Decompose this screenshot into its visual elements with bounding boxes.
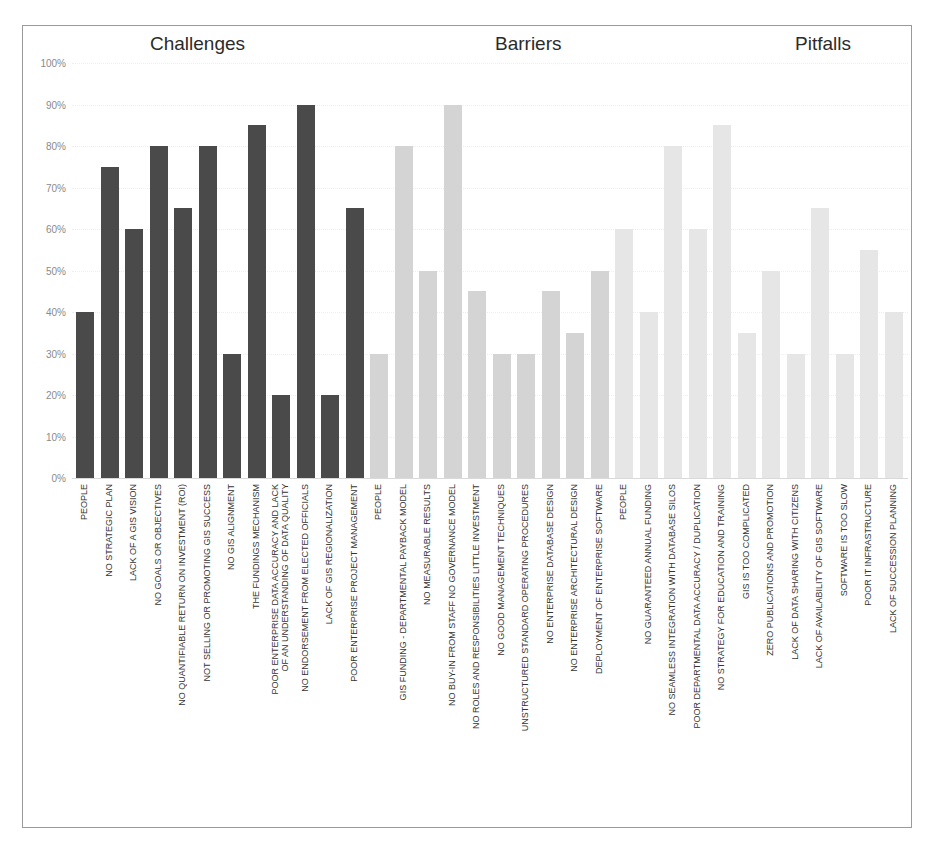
y-tick-label: 30% [28, 348, 66, 359]
bar-barriers [395, 146, 413, 478]
x-axis-label: UNSTRUCTURED STANDARD OPERATING PROCEDUR… [520, 484, 530, 731]
x-axis-label: POOR ENTERPRISE PROJECT MANAGEMENT [349, 484, 359, 682]
bar-challenges [346, 208, 364, 478]
x-axis-label: NO BUY-IN FROM STAFF NO GOVERNANCE MODEL [447, 484, 457, 706]
y-tick-label: 50% [28, 265, 66, 276]
gridline [72, 437, 908, 438]
y-tick-label: 40% [28, 307, 66, 318]
x-axis-label: NO STRATEGIC PLAN [104, 484, 114, 577]
bar-barriers [517, 354, 535, 479]
bar-barriers [419, 271, 437, 479]
bar-pitfalls [787, 354, 805, 479]
x-axis-label: POOR ENTERPRISE DATA ACCURACY AND LACKOF… [270, 484, 290, 695]
bar-pitfalls [713, 125, 731, 478]
x-axis-label: NO GUARANTEED ANNUAL FUNDING [643, 484, 653, 644]
x-axis-label: NO GOOD MANAGEMENT TECHNIQUES [496, 484, 506, 656]
x-axis-label: GIS IS TOO COMPLICATED [741, 484, 751, 599]
x-axis-label: NOT SELLING OR PROMOTING GIS SUCCESS [202, 484, 212, 681]
x-axis-label: NO ENTERPRISE DATABASE DESIGN [545, 484, 555, 644]
x-axis-label: LACK OF DATA SHARING WITH CITIZENS [790, 484, 800, 660]
x-axis-label: POOR IT INFRASTRUCTURE [863, 484, 873, 606]
x-axis-label: DEPLOYMENT OF ENTERPRISE SOFTWARE [594, 484, 604, 674]
x-axis-label: GIS FUNDING - DEPARTMENTAL PAYBACK MODEL [398, 484, 408, 700]
bar-pitfalls [738, 333, 756, 478]
gridline [72, 229, 908, 230]
x-axis-label: NO SEAMLESS INTEGRATION WITH DATABASE SI… [667, 484, 677, 716]
bar-challenges [297, 105, 315, 479]
gridline [72, 395, 908, 396]
gridline [72, 271, 908, 272]
x-axis-label: NO QUANTIFIABLE RETURN ON INVESTMENT (RO… [177, 484, 187, 706]
gridline [72, 354, 908, 355]
x-axis-line [72, 478, 908, 479]
bar-barriers [370, 354, 388, 479]
x-axis-label: LACK OF AVAILABILITY OF GIS SOFTWARE [814, 484, 824, 668]
bar-barriers [444, 105, 462, 479]
x-axis-label: NO GOALS OR OBJECTIVES [153, 484, 163, 606]
bar-challenges [101, 167, 119, 478]
y-tick-label: 100% [28, 58, 66, 69]
bar-pitfalls [664, 146, 682, 478]
x-axis-label: NO ROLES AND RESPONSIBILITIES LITTLE INV… [471, 484, 481, 729]
x-axis-label: LACK OF GIS REGIONALIZATION [324, 484, 334, 624]
x-axis-label: LACK OF A GIS VISION [128, 484, 138, 581]
x-axis-label: THE FUNDINGS MECHANISM [251, 484, 261, 609]
bar-barriers [468, 291, 486, 478]
x-axis-label: NO MEASURABLE RESULTS [422, 484, 432, 605]
group-title-challenges: Challenges [150, 33, 245, 55]
gridline [72, 146, 908, 147]
bar-barriers [493, 354, 511, 479]
bar-pitfalls [615, 229, 633, 478]
bar-barriers [542, 291, 560, 478]
bar-pitfalls [640, 312, 658, 478]
gridline [72, 63, 908, 64]
x-axis-label: PEOPLE [618, 484, 628, 520]
bar-challenges [272, 395, 290, 478]
x-axis-label: NO GIS ALIGNMENT [226, 484, 236, 570]
bar-challenges [174, 208, 192, 478]
gridline [72, 105, 908, 106]
bar-challenges [76, 312, 94, 478]
x-axis-label: NO ENTERPRISE ARCHITECTURAL DESIGN [569, 484, 579, 672]
x-axis-label: NO ENDORSEMENT FROM ELECTED OFFICIALS [300, 484, 310, 692]
bar-challenges [199, 146, 217, 478]
bar-pitfalls [762, 271, 780, 479]
y-tick-label: 10% [28, 431, 66, 442]
x-axis-label: LACK OF SUCCESSION PLANNING [888, 484, 898, 633]
gridline [72, 312, 908, 313]
y-tick-label: 80% [28, 141, 66, 152]
x-axis-label: SOFTWARE IS TOO SLOW [839, 484, 849, 596]
gridline [72, 188, 908, 189]
bar-challenges [321, 395, 339, 478]
bar-pitfalls [860, 250, 878, 478]
bar-pitfalls [836, 354, 854, 479]
bar-barriers [591, 271, 609, 479]
bar-pitfalls [811, 208, 829, 478]
y-tick-label: 20% [28, 390, 66, 401]
bar-pitfalls [689, 229, 707, 478]
bar-barriers [566, 333, 584, 478]
y-tick-label: 90% [28, 99, 66, 110]
bar-challenges [248, 125, 266, 478]
x-axis-label: PEOPLE [79, 484, 89, 520]
bar-pitfalls [885, 312, 903, 478]
y-tick-label: 60% [28, 224, 66, 235]
x-axis-label: ZERO PUBLICATIONS AND PROMOTION [765, 484, 775, 656]
group-title-pitfalls: Pitfalls [795, 33, 851, 55]
y-tick-label: 70% [28, 182, 66, 193]
bar-challenges [223, 354, 241, 479]
x-axis-label: NO STRATEGY FOR EDUCATION AND TRAINING [716, 484, 726, 690]
bar-challenges [150, 146, 168, 478]
x-axis-label: PEOPLE [373, 484, 383, 520]
group-title-barriers: Barriers [495, 33, 562, 55]
y-tick-label: 0% [28, 473, 66, 484]
bar-challenges [125, 229, 143, 478]
x-axis-label: POOR DEPARTMENTAL DATA ACCURACY / DUPLIC… [692, 484, 702, 729]
